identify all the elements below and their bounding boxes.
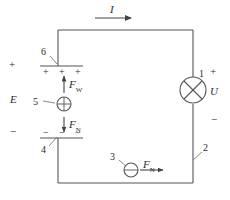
voltage-label: U [210, 86, 218, 97]
plate-negative-sign-2: − [59, 128, 65, 138]
leader-5 [43, 101, 55, 103]
emf-minus-sign: − [10, 126, 16, 137]
callout-1-label: 1 [199, 69, 204, 79]
callout-5-label: 5 [33, 97, 38, 107]
leader-6 [50, 56, 57, 64]
leader-2 [193, 152, 202, 160]
plate-negative-sign-1: − [43, 128, 49, 138]
force-source-symbol: F [143, 158, 150, 170]
current-label: I [110, 4, 114, 15]
plate-negative-sign-3: − [75, 128, 81, 138]
callout-4-label: 4 [41, 145, 46, 155]
circuit-diagram-figure: I + E − 6 + + + FW 5 FN − − − 4 3 FN 1 +… [0, 0, 230, 200]
callout-3-label: 3 [110, 152, 115, 162]
force-source-label: FN [143, 155, 155, 174]
emf-plus-sign: + [9, 59, 15, 70]
callout-2-label: 2 [203, 143, 208, 153]
force-work-label: FW [69, 75, 82, 94]
emf-label: E [10, 94, 17, 105]
force-work-subscript: W [76, 86, 83, 94]
lamp-minus-sign: − [211, 114, 217, 125]
force-source-subscript: N [150, 166, 155, 174]
plate-positive-sign-1: + [43, 67, 49, 77]
lamp-plus-sign: + [210, 66, 216, 77]
plate-positive-sign-2: + [59, 67, 65, 77]
force-work-symbol: F [69, 78, 76, 90]
callout-6-label: 6 [41, 47, 46, 57]
